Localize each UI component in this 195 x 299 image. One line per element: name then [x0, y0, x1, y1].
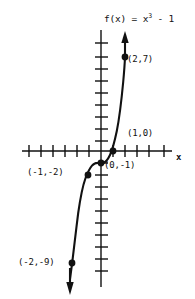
- function-title-base: f(x) = x: [104, 13, 148, 24]
- point-label-m1-m2: (-1,-2): [27, 167, 64, 177]
- x-axis-label: x: [176, 152, 181, 162]
- data-point-m2-m9: [69, 260, 76, 267]
- function-title: f(x) = x3 - 1: [104, 14, 174, 24]
- point-label-m2-m9: (-2,-9): [18, 257, 55, 267]
- point-label-2-7: (2,7): [127, 54, 153, 64]
- plot-canvas: [0, 0, 195, 299]
- data-point-1-0: [110, 148, 117, 155]
- data-point-m1-m2: [85, 172, 92, 179]
- point-label-0-m1: (0,-1): [104, 160, 135, 170]
- point-label-1-0: (1,0): [127, 128, 153, 138]
- curve-arrow-down: [66, 268, 73, 295]
- function-graph-figure: f(x) = x3 - 1 x (2,7) (1,0) (0,-1) (-1,-…: [0, 0, 195, 299]
- function-title-tail: - 1: [152, 13, 174, 24]
